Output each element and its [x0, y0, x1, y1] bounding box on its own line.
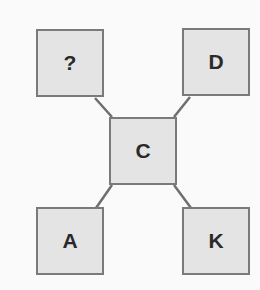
node-top-left: ?: [36, 29, 104, 97]
node-label: A: [62, 229, 77, 253]
node-center: C: [109, 117, 177, 185]
node-label: ?: [64, 51, 77, 75]
node-label: D: [208, 50, 223, 74]
node-label: C: [135, 139, 150, 163]
node-top-right: D: [182, 28, 250, 96]
node-label: K: [208, 229, 223, 253]
node-bottom-right: K: [182, 207, 250, 275]
node-bottom-left: A: [36, 207, 104, 275]
